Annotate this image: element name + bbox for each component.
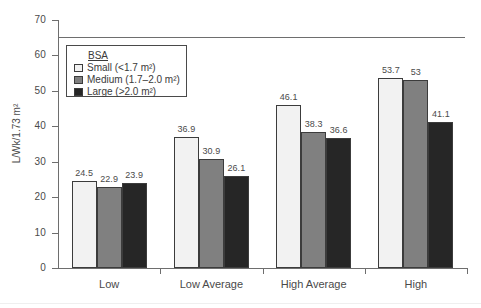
legend: BSA Small (<1.7 m²)Medium (1.7–2.0 m²)La… (66, 45, 187, 97)
legend-swatch (74, 64, 83, 72)
x-tick-label: Low (58, 278, 160, 290)
bar (403, 80, 428, 268)
legend-label: Large (>2.0 m²) (87, 87, 156, 97)
x-axis-group-tick (467, 268, 468, 274)
legend-label: Small (<1.7 m²) (87, 63, 156, 73)
x-axis-group-tick (160, 268, 161, 274)
legend-entries: Small (<1.7 m²)Medium (1.7–2.0 m²)Large … (74, 62, 181, 97)
bar (174, 137, 199, 268)
scan-edge (0, 303, 481, 304)
x-tick-label: Low Average (160, 278, 262, 290)
bar (122, 183, 147, 268)
bar-value-label: 53 (397, 68, 434, 77)
x-tick-label: High (365, 278, 467, 290)
legend-swatch (74, 76, 83, 84)
bar-value-label: 36.9 (168, 125, 205, 134)
legend-title: BSA (88, 50, 181, 61)
bar (301, 132, 326, 268)
legend-entry: Medium (1.7–2.0 m²) (74, 74, 181, 85)
bar-value-label: 26.1 (218, 164, 255, 173)
bar-value-label: 36.6 (320, 126, 357, 135)
bar (428, 122, 453, 268)
bar (224, 176, 249, 268)
legend-entry: Large (>2.0 m²) (74, 86, 181, 97)
bar (97, 187, 122, 268)
bar-chart: L/Wk/1.73 m² 706050403020100 24.522.923.… (0, 0, 481, 308)
legend-swatch (74, 88, 83, 96)
bar (199, 159, 224, 268)
legend-label: Medium (1.7–2.0 m²) (87, 75, 180, 85)
bar-value-label: 46.1 (270, 93, 307, 102)
bar-value-label: 23.9 (116, 171, 153, 180)
bar-value-label: 30.9 (193, 147, 230, 156)
bar (72, 181, 97, 268)
bars-layer: 24.522.923.936.930.926.146.138.336.653.7… (0, 0, 481, 268)
bar (326, 138, 351, 268)
x-tick-label: High Average (263, 278, 365, 290)
x-axis-group-tick (365, 268, 366, 274)
legend-entry: Small (<1.7 m²) (74, 62, 181, 73)
x-axis-group-tick (263, 268, 264, 274)
bar (378, 78, 403, 268)
bar-value-label: 41.1 (422, 110, 459, 119)
